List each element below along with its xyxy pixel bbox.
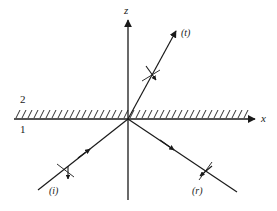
- reflected-ray-label: (r): [192, 186, 203, 196]
- transmitted-ray-label: (t): [181, 28, 190, 38]
- ray-diagram-figure: z x 2 1 (i) (r) (t): [0, 0, 277, 211]
- reflected-ray-line: [128, 119, 237, 192]
- diagram-canvas: [0, 0, 277, 211]
- incident-ray-label: (i): [49, 186, 58, 196]
- transmitted-polarization-tick: [142, 70, 160, 81]
- z-axis-label: z: [124, 5, 128, 16]
- incident-ray-arrow: [78, 149, 90, 158]
- x-axis-label: x: [261, 113, 266, 124]
- medium-2-label: 2: [20, 94, 26, 105]
- reflected-ray-arrow: [160, 140, 174, 150]
- medium-1-label: 1: [20, 124, 26, 135]
- incident-polarization-tick: [57, 164, 74, 177]
